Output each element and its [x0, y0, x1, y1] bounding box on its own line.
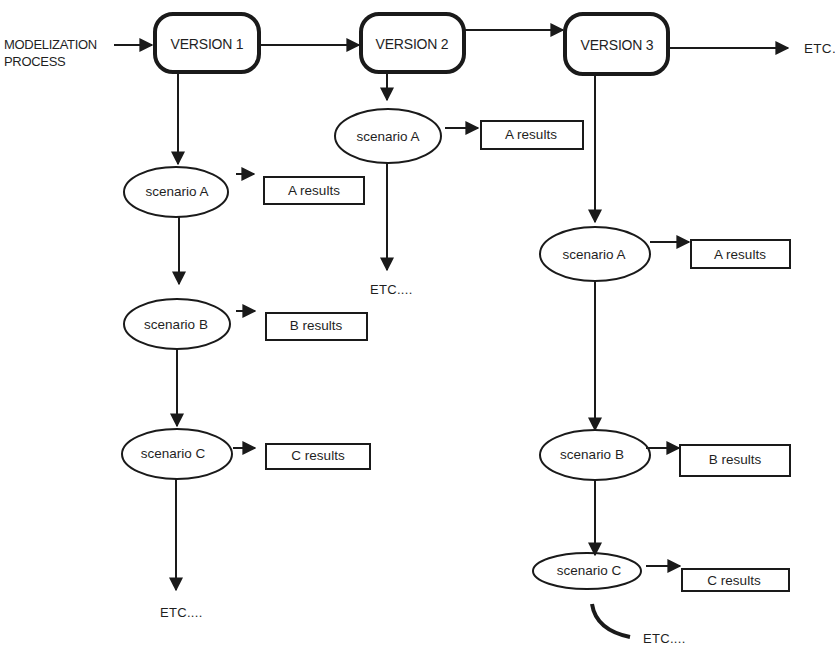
flow-diagram: [0, 0, 839, 657]
trailing-etc-label: ETC.: [804, 42, 836, 56]
modelization-process-label: MODELIZATION PROCESS: [4, 36, 97, 70]
version-2-label: VERSION 2: [376, 37, 449, 51]
v3-scenario-a-label: scenario A: [562, 248, 625, 262]
v2-a-results-label: A results: [505, 128, 557, 142]
v1-scenario-a-label: scenario A: [145, 185, 208, 199]
v3-scenario-b-label: scenario B: [560, 448, 624, 462]
v3-etc-curve: [592, 604, 630, 637]
v3-b-results-label: B results: [709, 453, 762, 467]
version-3-label: VERSION 3: [581, 38, 654, 52]
v1-scenario-b-label: scenario B: [144, 318, 208, 332]
v3-c-results-label: C results: [707, 574, 760, 588]
v1-scenario-c-label: scenario C: [141, 447, 206, 461]
v1-b-results-label: B results: [290, 319, 343, 333]
v1-c-results-label: C results: [291, 449, 344, 463]
v2-scenario-a-label: scenario A: [356, 130, 419, 144]
v3-etc-label: ETC....: [643, 632, 686, 645]
v3-a-results-label: A results: [714, 248, 766, 262]
v3-scenario-c-label: scenario C: [557, 564, 622, 578]
v1-a-results-label: A results: [288, 184, 340, 198]
version-1-label: VERSION 1: [171, 37, 244, 51]
v2-etc-label: ETC....: [370, 283, 413, 296]
v1-etc-label: ETC....: [160, 606, 203, 619]
